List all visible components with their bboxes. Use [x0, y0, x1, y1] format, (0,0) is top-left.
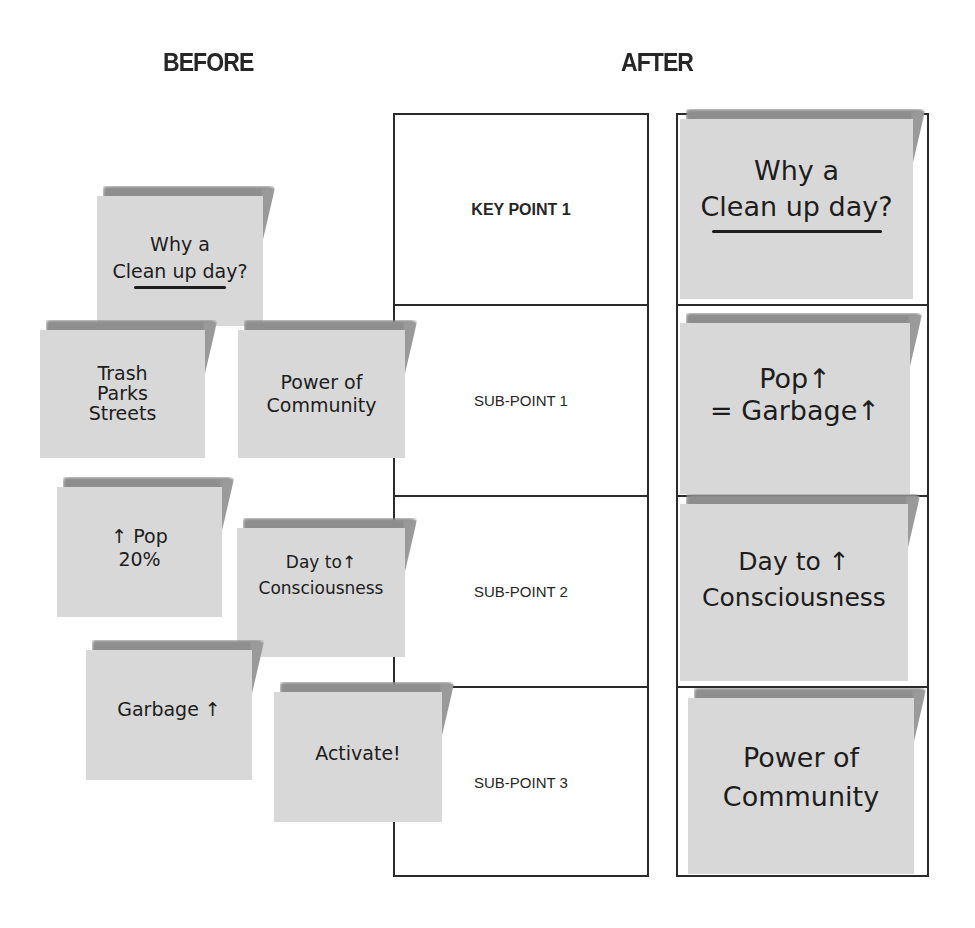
sticky-note-garbage-up[interactable]: Garbage ↑: [86, 650, 252, 780]
sticky-note-day-to-consciousness[interactable]: Day to↑ Consciousness: [237, 528, 405, 657]
note-underline: [134, 286, 226, 289]
note-text-line: Why a: [754, 155, 839, 187]
frame-divider: [678, 686, 927, 688]
after-note-day-to-consciousness[interactable]: Day to ↑ Consciousness: [680, 504, 908, 681]
sticky-note-why-cleanup[interactable]: Why a Clean up day?: [97, 196, 263, 326]
sub-point-2-label: SUB-POINT 2: [474, 583, 568, 600]
after-note-power-of-community[interactable]: Power of Community: [688, 698, 914, 874]
sticky-note-activate[interactable]: Activate!: [274, 692, 442, 822]
note-text-line: Power of: [743, 738, 859, 777]
note-text-line: Why a: [150, 233, 210, 256]
note-text-line: Clean up day?: [700, 191, 892, 223]
note-curl: [250, 642, 264, 702]
sub-point-1-label: SUB-POINT 1: [474, 392, 568, 409]
sticky-note-trash-parks-streets[interactable]: Trash Parks Streets: [40, 330, 205, 458]
note-text-line: Activate!: [315, 742, 400, 765]
note-curl: [261, 188, 275, 248]
frame-divider: [678, 304, 927, 306]
note-text-line: = Garbage↑: [710, 395, 880, 427]
after-note-why-cleanup[interactable]: Why a Clean up day?: [680, 119, 913, 299]
note-curl: [203, 322, 217, 382]
note-text-line: ↑ Pop: [111, 525, 167, 548]
note-curl: [220, 479, 234, 539]
note-text-line: Community: [723, 777, 879, 816]
before-heading: BEFORE: [163, 48, 253, 77]
note-text-line: 20%: [118, 548, 160, 571]
note-underline: [712, 230, 882, 233]
sub-point-1-cell: SUB-POINT 1: [395, 306, 647, 495]
after-heading: AFTER: [621, 48, 693, 77]
sticky-note-power-of-community[interactable]: Power of Community: [238, 330, 405, 458]
sub-point-3-label: SUB-POINT 3: [474, 774, 568, 791]
note-text-line: Pop↑: [759, 363, 831, 395]
note-text-line: Trash: [97, 364, 147, 384]
note-text-line: Day to↑: [286, 550, 356, 576]
sub-point-2-cell: SUB-POINT 2: [395, 497, 647, 686]
note-text-line: Garbage ↑: [117, 698, 221, 721]
note-text-line: Power of: [281, 371, 363, 394]
note-text-line: Community: [267, 394, 377, 417]
key-point-1-label: KEY POINT 1: [471, 201, 570, 219]
after-note-pop-garbage[interactable]: Pop↑ = Garbage↑: [680, 323, 910, 494]
note-text-line: Day to ↑: [738, 544, 849, 580]
note-text-line: Streets: [89, 404, 157, 424]
key-point-1-cell: KEY POINT 1: [395, 115, 647, 304]
note-text-line: Clean up day?: [112, 260, 247, 283]
sticky-note-pop-20[interactable]: ↑ Pop 20%: [57, 487, 222, 617]
note-text-line: Consciousness: [259, 576, 384, 602]
note-text-line: Consciousness: [702, 580, 886, 616]
note-text-line: Parks: [97, 384, 148, 404]
